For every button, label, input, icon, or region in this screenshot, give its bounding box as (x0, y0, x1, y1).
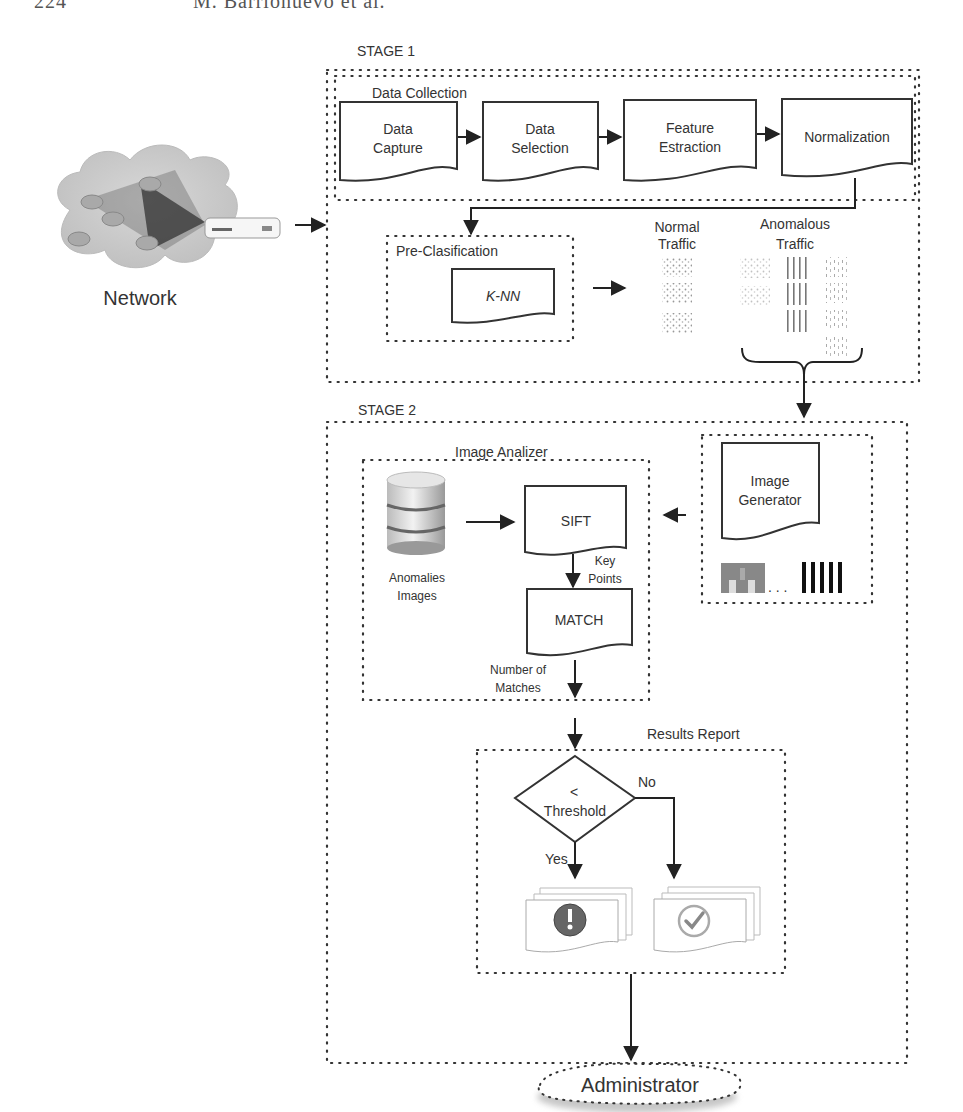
svg-text:SIFT: SIFT (561, 513, 592, 529)
stage1-title: STAGE 1 (357, 43, 415, 59)
yes-label: Yes (545, 851, 568, 867)
checkmark-icon (679, 906, 709, 936)
svg-text:Feature: Feature (666, 120, 714, 136)
network-label: Network (103, 287, 177, 309)
normal-traffic-label: Normal (654, 219, 699, 235)
svg-text:Traffic: Traffic (776, 236, 814, 252)
stage2-title: STAGE 2 (358, 402, 416, 418)
alert-report (526, 888, 632, 952)
image-generator-step: Image Generator (722, 443, 819, 539)
svg-text:MATCH: MATCH (555, 612, 604, 628)
step-data-selection: Data Selection (483, 102, 598, 181)
administrator-node: Administrator (537, 1064, 741, 1112)
results-report-title: Results Report (647, 726, 740, 742)
architecture-diagram: Network STAGE 1 Data Collection Data Cap… (0, 0, 963, 1112)
anomalous-traffic-images (740, 257, 850, 357)
svg-text:Generator: Generator (738, 492, 801, 508)
router-icon (205, 218, 280, 238)
svg-text:Image: Image (751, 473, 790, 489)
exclamation-icon (554, 904, 586, 936)
svg-text:Selection: Selection (511, 140, 569, 156)
image-analyzer-title: Image Analizer (455, 444, 548, 460)
svg-text:Matches: Matches (495, 681, 540, 695)
svg-text:Images: Images (397, 589, 436, 603)
number-of-matches-label: Number of (490, 663, 547, 677)
sift-step: SIFT (525, 486, 626, 555)
arrow-no-branch (635, 798, 674, 878)
database-label: Anomalies (389, 571, 445, 585)
ok-report (654, 887, 760, 952)
svg-text:Traffic: Traffic (658, 236, 696, 252)
knn-step: K-NN (452, 269, 554, 323)
svg-text:Data: Data (383, 121, 413, 137)
svg-text:. . .: . . . (768, 579, 787, 595)
database-icon (387, 472, 445, 555)
no-label: No (638, 774, 656, 790)
normal-traffic-images (662, 257, 692, 333)
svg-text:Normalization: Normalization (804, 129, 890, 145)
step-normalization: Normalization (782, 99, 912, 176)
svg-text:Threshold: Threshold (544, 803, 606, 819)
preclassification-title: Pre-Clasification (396, 243, 498, 259)
step-data-capture: Data Capture (340, 102, 457, 181)
svg-text:Points: Points (588, 572, 621, 586)
threshold-decision: < Threshold (515, 756, 635, 842)
key-points-label: Key (595, 554, 616, 568)
svg-text:Administrator: Administrator (581, 1074, 699, 1096)
svg-text:Estraction: Estraction (659, 139, 721, 155)
svg-text:K-NN: K-NN (486, 288, 521, 304)
svg-text:Data: Data (525, 121, 555, 137)
step-feature-extraction: Feature Estraction (624, 100, 756, 181)
network-cloud-icon (58, 145, 238, 268)
generated-images: . . . (721, 562, 842, 595)
anomalous-traffic-label: Anomalous (760, 216, 830, 232)
svg-text:Capture: Capture (373, 140, 423, 156)
match-step: MATCH (527, 589, 632, 655)
svg-text:<: < (570, 784, 578, 800)
data-collection-title: Data Collection (372, 85, 467, 101)
